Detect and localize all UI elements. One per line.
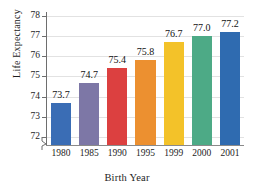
x-tick-label: 1980	[52, 149, 71, 159]
x-axis-title: Birth Year	[0, 172, 254, 183]
x-tick-label: 1995	[136, 149, 155, 159]
y-tick-label: 77	[31, 31, 41, 41]
x-tick-label: 1985	[80, 149, 99, 159]
bar-slot: 77.02000	[188, 12, 216, 145]
bar	[135, 60, 155, 145]
bar-value-label: 73.7	[52, 90, 70, 100]
plot-area: 72737475767778 73.7198074.7198575.419907…	[46, 12, 244, 145]
x-axis-spine	[46, 145, 244, 146]
x-tick-label: 1990	[108, 149, 127, 159]
bar-slot: 73.71980	[47, 12, 75, 145]
bar-chart-figure: Life Expectancy 72737475767778 73.719807…	[0, 0, 254, 193]
x-tick-label: 2001	[220, 149, 239, 159]
bar-value-label: 75.8	[137, 47, 155, 57]
bar-slot: 74.71985	[75, 12, 103, 145]
bar-value-label: 75.4	[109, 55, 127, 65]
y-tick-label: 76	[31, 52, 41, 62]
y-tick-label: 74	[31, 92, 41, 102]
y-tick-label: 75	[31, 72, 41, 82]
bar-value-label: 74.7	[80, 70, 98, 80]
bar-value-label: 77.2	[221, 19, 239, 29]
bar	[79, 83, 99, 145]
bar-slot: 75.41990	[103, 12, 131, 145]
bar	[107, 68, 127, 145]
bars-group: 73.7198074.7198575.4199075.8199576.71999…	[47, 12, 244, 145]
y-tick-label: 73	[31, 112, 41, 122]
bar	[192, 36, 212, 145]
bar-value-label: 76.7	[165, 29, 183, 39]
x-tick-label: 1999	[164, 149, 183, 159]
bar-slot: 76.71999	[160, 12, 188, 145]
bar-slot: 77.22001	[216, 12, 244, 145]
y-axis-title: Life Expectancy	[11, 0, 22, 104]
y-tick-label: 72	[31, 132, 41, 142]
bar-slot: 75.81995	[131, 12, 159, 145]
bar	[164, 42, 184, 145]
bar	[220, 32, 240, 145]
bar-value-label: 77.0	[193, 23, 211, 33]
x-tick-label: 2000	[192, 149, 211, 159]
y-tick-label: 78	[31, 11, 41, 21]
bar	[51, 103, 71, 145]
